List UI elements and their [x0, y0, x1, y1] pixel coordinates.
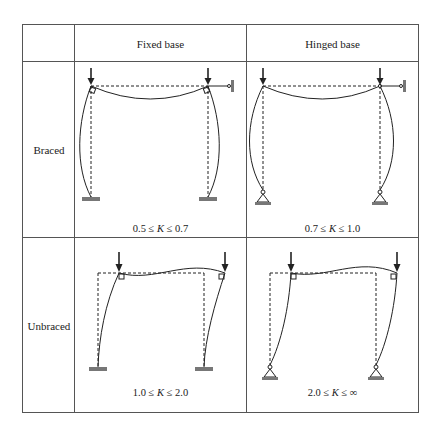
diagram-unbraced-fixed: 1.0 ≤ K ≤ 2.0 — [75, 238, 246, 413]
brace-wall-icon — [403, 80, 406, 92]
fixed-support-icon — [195, 367, 213, 371]
load-arrow-icon — [394, 252, 401, 272]
header-hinged-base: Hinged base — [247, 25, 418, 62]
pin-support-icon — [372, 190, 388, 205]
k-range-label: 0.7 ≤ K ≤ 1.0 — [247, 223, 418, 234]
k-range-label: 1.0 ≤ K ≤ 2.0 — [75, 387, 246, 398]
k-range-label: 0.5 ≤ K ≤ 0.7 — [75, 223, 246, 234]
load-arrow-icon — [288, 252, 295, 272]
load-arrow-icon — [116, 252, 123, 272]
header-empty-cell — [23, 25, 75, 62]
load-arrow-icon — [88, 68, 95, 85]
k-range-label: 2.0 ≤ K ≤ ∞ — [247, 387, 418, 398]
brace-wall-icon — [231, 80, 234, 92]
fixed-support-icon — [89, 367, 107, 371]
braced-hinged-frame-drawing — [247, 62, 418, 237]
diagram-braced-hinged: 0.7 ≤ K ≤ 1.0 — [247, 62, 418, 237]
header-fixed-base: Fixed base — [75, 25, 246, 62]
pin-support-icon — [368, 365, 384, 380]
load-arrow-icon — [222, 252, 229, 272]
diagram-braced-fixed: 0.5 ≤ K ≤ 0.7 — [75, 62, 246, 237]
effective-length-table: Fixed base Hinged base Braced Unbraced — [22, 24, 419, 413]
pin-support-icon — [262, 365, 278, 380]
load-arrow-icon — [260, 68, 267, 85]
row-label-braced: Braced — [23, 62, 75, 237]
load-arrow-icon — [377, 68, 384, 85]
pin-support-icon — [255, 190, 271, 205]
fixed-support-icon — [199, 197, 217, 201]
fixed-support-icon — [82, 197, 100, 201]
braced-fixed-frame-drawing — [75, 62, 246, 237]
load-arrow-icon — [205, 68, 212, 85]
row-label-unbraced: Unbraced — [23, 238, 75, 413]
diagram-unbraced-hinged: 2.0 ≤ K ≤ ∞ — [247, 238, 418, 413]
